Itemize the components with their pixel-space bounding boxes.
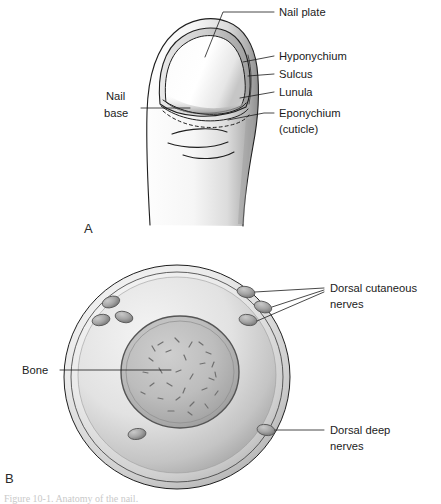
label-lunula: Lunula xyxy=(279,86,313,98)
cropped-caption-strip: Figure 10-1. Anatomy of the nail. xyxy=(4,493,138,504)
label-sulcus: Sulcus xyxy=(279,68,313,80)
label-nail-base-line2: base xyxy=(104,107,128,119)
bone-core xyxy=(121,316,239,428)
label-nail-base-line1: Nail xyxy=(106,90,125,102)
anatomy-figure-svg: Nail plate Hyponychium Sulcus Lunula Epo… xyxy=(0,0,441,504)
label-dorsal-deep-nerves-line2: nerves xyxy=(330,440,364,452)
figure-root: Nail plate Hyponychium Sulcus Lunula Epo… xyxy=(0,0,441,504)
label-hyponychium: Hyponychium xyxy=(279,50,347,62)
caption-ghost-text: Figure 10-1. Anatomy of the nail. xyxy=(4,493,138,504)
panel-letter-b: B xyxy=(5,471,14,486)
panel-letter-a: A xyxy=(84,221,93,236)
label-bone: Bone xyxy=(22,364,48,376)
label-eponychium: Eponychium xyxy=(279,107,341,119)
label-dorsal-cutaneous-nerves-line2: nerves xyxy=(330,298,364,310)
label-eponychium-cuticle: (cuticle) xyxy=(279,123,318,135)
label-nail-plate: Nail plate xyxy=(279,6,326,18)
label-dorsal-cutaneous-nerves-line1: Dorsal cutaneous xyxy=(330,282,417,294)
label-dorsal-deep-nerves-line1: Dorsal deep xyxy=(330,424,390,436)
